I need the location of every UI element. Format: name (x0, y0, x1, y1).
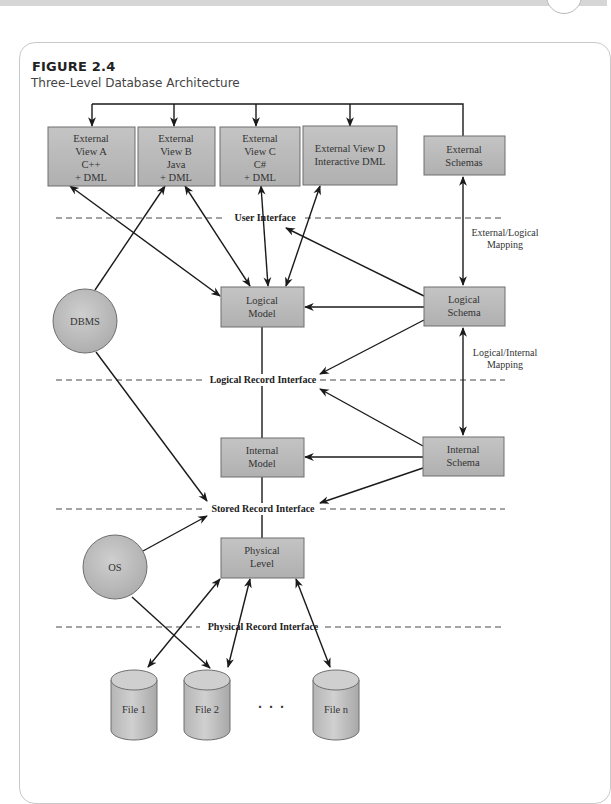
external-logical-mapping-label-1: External/Logical (471, 227, 538, 238)
file-2-cylinder: File 2 (184, 670, 230, 740)
external-view-b: External View B Java + DML (138, 127, 215, 186)
internal-schema: Internal Schema (423, 437, 504, 476)
external-view-d: External View D Interactive DML (303, 126, 397, 185)
logical-record-interface-label-overlay: Logical Record Interface (210, 374, 317, 385)
logical-model: Logical Model (221, 287, 304, 327)
internal-schema-line-2: Schema (446, 457, 480, 468)
file-2-label: File 2 (195, 704, 219, 715)
user-interface-label: User Interface (234, 212, 296, 223)
internal-schema-line-1: Internal (447, 444, 480, 455)
external-view-a-line-4: + DML (75, 172, 107, 183)
file-n-label: File n (324, 704, 349, 715)
external-view-a: External View A C++ + DML (48, 127, 135, 186)
logical-schema-user-interface-arrow (286, 228, 424, 296)
physical-record-interface-label: Physical Record Interface (208, 621, 319, 632)
external-view-c-line-4: + DML (244, 172, 276, 183)
more-files-ellipsis: . . . (258, 696, 286, 711)
external-view-c-line-2: View C (244, 146, 276, 157)
file-n-cylinder: File n (313, 670, 359, 740)
external-view-b-line-1: External (158, 133, 194, 144)
view-a-logical-model-arrow (70, 186, 220, 296)
dbms-label: DBMS (70, 316, 100, 327)
external-view-b-line-2: View B (160, 146, 192, 157)
external-logical-mapping-label-2: Mapping (487, 239, 523, 250)
view-b-logical-model-arrow (185, 186, 250, 286)
physical-record-interface-line: Physical Record Interface (56, 621, 505, 632)
logical-schema: Logical Schema (424, 287, 505, 326)
os-node: OS (83, 535, 147, 599)
internal-model: Internal Model (221, 438, 304, 477)
stored-record-interface-label-overlay: Stored Record Interface (211, 503, 315, 514)
logical-internal-mapping-label-1: Logical/Internal (473, 347, 538, 358)
logical-schema-lri-arrow (320, 320, 424, 374)
internal-model-line-2: Model (248, 458, 275, 469)
external-view-a-line-3: C++ (82, 159, 101, 170)
external-schemas-line-2: Schemas (445, 157, 482, 168)
user-interface-line: User Interface (56, 212, 505, 223)
view-c-logical-model-arrow (261, 186, 268, 286)
os-file2-arrow (132, 597, 210, 668)
internal-model-line-1: Internal (246, 445, 279, 456)
physical-level: Physical Level (221, 538, 304, 578)
external-view-a-line-2: View A (75, 146, 107, 157)
logical-schema-line-2: Schema (447, 307, 481, 318)
logical-schema-line-1: Logical (448, 294, 480, 305)
logical-model-line-2: Model (248, 308, 275, 319)
file-1-cylinder: File 1 (111, 670, 157, 740)
external-view-a-line-1: External (73, 133, 109, 144)
internal-schema-sri-arrow (320, 468, 423, 503)
logical-model-line-1: Logical (246, 295, 278, 306)
file-1-label: File 1 (122, 704, 146, 715)
external-view-b-line-3: Java (167, 159, 186, 170)
external-view-d-line-1: External View D (315, 143, 386, 154)
external-view-d-line-2: Interactive DML (315, 156, 386, 167)
os-sri-arrow (143, 516, 207, 551)
external-view-c-line-3: C# (254, 159, 267, 170)
external-schemas: External Schemas (424, 136, 505, 175)
external-view-b-line-4: + DML (160, 172, 192, 183)
physical-level-line-1: Physical (244, 545, 280, 556)
physical-level-line-2: Level (250, 558, 274, 569)
internal-schema-lri-arrow (320, 389, 423, 446)
os-label: OS (108, 562, 122, 573)
external-view-c: External View C C# + DML (220, 127, 300, 186)
dbms-sri-arrow (96, 352, 207, 501)
external-schemas-line-1: External (446, 144, 482, 155)
external-view-c-line-1: External (242, 133, 278, 144)
dbms-view-b-arrow (95, 186, 165, 290)
logical-internal-mapping-label-2: Mapping (487, 359, 523, 370)
dbms-node: DBMS (53, 289, 117, 353)
